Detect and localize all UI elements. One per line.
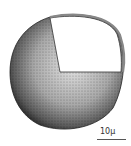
- cell-illustration: [0, 0, 131, 146]
- scale-bar: [97, 139, 126, 140]
- scale-bar-label: 10µ: [100, 127, 115, 136]
